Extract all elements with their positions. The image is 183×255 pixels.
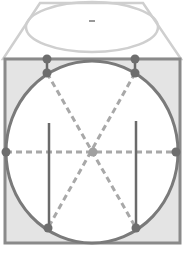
construction-dot — [44, 224, 53, 233]
construction-dot — [172, 148, 181, 157]
top-face — [3, 3, 181, 59]
construction-dot — [131, 69, 140, 78]
center-dot — [89, 148, 98, 157]
construction-dot — [131, 55, 140, 64]
construction-dot — [43, 69, 52, 78]
construction-dot — [2, 148, 11, 157]
cube-cylinder-diagram — [0, 0, 183, 255]
construction-dot — [43, 55, 52, 64]
construction-dot — [132, 224, 141, 233]
